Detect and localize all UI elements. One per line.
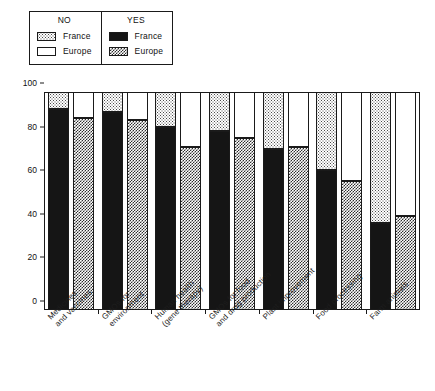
legend-entry-no-france: France <box>37 29 92 43</box>
y-axis-tick-mark <box>40 301 44 302</box>
y-axis-tick-mark <box>40 83 44 84</box>
legend-group-no: NO France Europe <box>29 11 102 65</box>
y-axis-tick: 20 <box>28 253 44 262</box>
y-axis-tick: 60 <box>28 166 44 175</box>
bar-europe-no <box>395 92 416 216</box>
x-axis-tick-mark <box>366 310 367 314</box>
y-axis-tick-mark <box>40 170 44 171</box>
y-axis-tick-label: 40 <box>28 209 37 218</box>
y-axis-tick-mark <box>40 213 44 214</box>
y-axis-tick-label: 100 <box>23 79 37 88</box>
bar-france-yes <box>155 127 176 310</box>
bar-europe-no <box>341 92 362 181</box>
bar-europe-no <box>73 92 94 118</box>
legend-swatch-france-yes <box>109 32 128 41</box>
bar-france <box>102 92 123 310</box>
bar-france-yes <box>209 131 230 310</box>
bar-france <box>155 92 176 310</box>
bar-france-no <box>370 92 391 223</box>
bar-france <box>48 92 69 310</box>
bar-france-no <box>316 92 337 170</box>
legend-group-no-title: NO <box>37 16 92 25</box>
bar-europe <box>73 92 94 310</box>
legend-entry-no-europe: Europe <box>37 44 92 58</box>
bar-europe-no <box>180 92 201 147</box>
y-axis-tick: 0 <box>32 297 44 306</box>
chart-legend: NO France Europe YES France Europe <box>29 11 173 65</box>
bar-europe <box>127 92 148 310</box>
y-axis-tick: 40 <box>28 209 44 218</box>
legend-entry-yes-france: France <box>109 29 164 43</box>
legend-label-france-yes: France <box>135 32 163 41</box>
legend-label-europe-no: Europe <box>63 47 92 56</box>
legend-swatch-france-no <box>37 32 56 41</box>
bar-france-yes <box>263 149 284 310</box>
bar-europe-no <box>127 92 148 120</box>
x-axis-tick-mark <box>151 310 152 314</box>
y-axis-tick-label: 80 <box>28 122 37 131</box>
bar-france-no <box>263 92 284 149</box>
y-axis-tick-label: 20 <box>28 253 37 262</box>
x-axis-tick-mark <box>313 310 314 314</box>
bar-group <box>102 92 148 310</box>
legend-group-yes: YES France Europe <box>101 11 174 65</box>
bar-france-yes <box>316 170 337 310</box>
legend-entry-yes-europe: Europe <box>109 44 164 58</box>
legend-swatch-europe-yes <box>109 47 128 56</box>
bar-france <box>209 92 230 310</box>
bar-europe-no <box>234 92 255 138</box>
bar-europe-yes <box>73 118 94 310</box>
legend-group-yes-title: YES <box>109 16 164 25</box>
bar-group <box>370 92 416 310</box>
bar-europe-yes <box>127 120 148 310</box>
bar-france-no <box>209 92 230 131</box>
y-axis-tick-mark <box>40 126 44 127</box>
bar-france-no <box>102 92 123 112</box>
legend-swatch-europe-no <box>37 47 56 56</box>
x-axis-tick-mark <box>259 310 260 314</box>
bar-group <box>155 92 201 310</box>
y-axis-tick-label: 0 <box>32 297 37 306</box>
bar-france-yes <box>102 112 123 310</box>
legend-label-europe-yes: Europe <box>135 47 164 56</box>
bar-france-yes <box>48 109 69 310</box>
stacked-bar-chart: NO France Europe YES France Europe <box>0 0 435 391</box>
bar-group <box>48 92 94 310</box>
bar-france-no <box>48 92 69 109</box>
y-axis-tick: 100 <box>23 79 44 88</box>
bar-france <box>316 92 337 310</box>
x-axis-tick-mark <box>205 310 206 314</box>
bar-europe-no <box>288 92 309 147</box>
bar-france <box>370 92 391 310</box>
legend-label-france-no: France <box>63 32 91 41</box>
y-axis-tick-label: 60 <box>28 166 37 175</box>
bar-europe <box>395 92 416 310</box>
x-axis-tick-mark <box>98 310 99 314</box>
bar-france-no <box>155 92 176 127</box>
y-axis-tick-mark <box>40 257 44 258</box>
y-axis-tick: 80 <box>28 122 44 131</box>
